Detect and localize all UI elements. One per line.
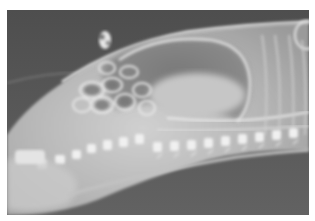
xray-image <box>7 10 309 215</box>
radiograph-graphic <box>7 10 309 215</box>
foreign-object <box>99 31 111 49</box>
